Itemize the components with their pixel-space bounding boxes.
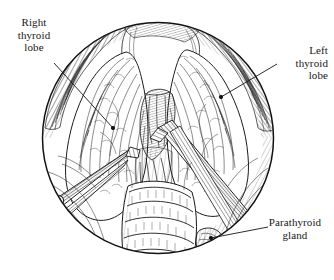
leader-dot-parathyroid [209, 236, 212, 239]
thyroid-illustration-figure: Right thyroid lobe Left thyroid lobe Par… [0, 0, 334, 280]
leader-dot-left-lobe [219, 95, 222, 98]
leader-dot-right-lobe [111, 126, 114, 129]
operative-field [40, 20, 280, 278]
label-right-thyroid-lobe: Right thyroid lobe [6, 16, 62, 54]
label-left-thyroid-lobe: Left thyroid lobe [262, 44, 328, 82]
trachea [122, 181, 197, 271]
label-parathyroid-gland: Parathyroid gland [258, 216, 332, 241]
